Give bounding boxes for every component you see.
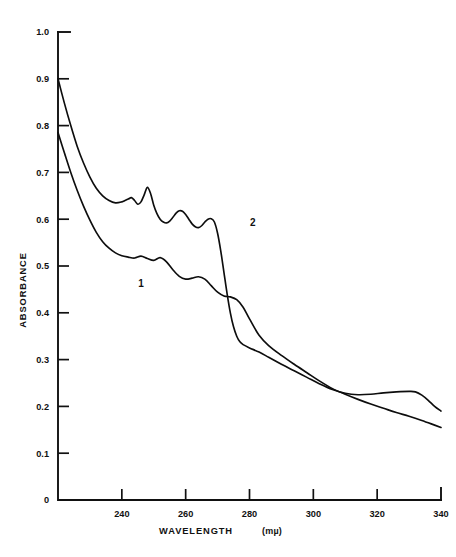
curve-label-2: 2	[250, 217, 256, 228]
x-tick-label-300: 300	[306, 509, 321, 519]
y-axis-ticks	[58, 79, 69, 453]
y-tick-label-0.7: 0.7	[36, 168, 49, 178]
y-tick-label-0.1: 0.1	[36, 449, 49, 459]
y-tick-label-0.2: 0.2	[36, 402, 49, 412]
y-tick-label-0.6: 0.6	[36, 215, 49, 225]
x-tick-label-340: 340	[433, 509, 448, 519]
plot-curves	[58, 79, 441, 428]
spectrum-curve-2	[58, 79, 441, 411]
x-axis-title: WAVELENGTH	[159, 526, 233, 536]
y-tick-label-1.0: 1.0	[36, 27, 49, 37]
x-tick-label-260: 260	[178, 509, 193, 519]
y-axis-title: ABSORBANCE	[18, 252, 28, 328]
x-axis-ticks	[122, 489, 377, 500]
spectrum-chart: 00.10.20.30.40.50.60.70.80.91.0 24026028…	[0, 0, 456, 557]
y-axis-tick-labels: 00.10.20.30.40.50.60.70.80.91.0	[36, 27, 50, 505]
y-tick-label-0: 0	[44, 495, 49, 505]
x-tick-label-320: 320	[369, 509, 384, 519]
absorbance-spectrum-figure: 00.10.20.30.40.50.60.70.80.91.0 24026028…	[0, 0, 456, 557]
chart-axes	[58, 32, 441, 500]
spectrum-curve-1	[58, 133, 441, 428]
y-tick-label-0.9: 0.9	[36, 74, 49, 84]
x-axis-tick-labels: 240260280300320340	[114, 509, 449, 519]
x-tick-label-240: 240	[114, 509, 129, 519]
y-tick-label-0.8: 0.8	[36, 121, 49, 131]
y-tick-label-0.4: 0.4	[36, 308, 50, 318]
y-tick-label-0.5: 0.5	[36, 261, 49, 271]
y-tick-label-0.3: 0.3	[36, 355, 49, 365]
x-axis-unit: (mµ)	[262, 526, 282, 536]
x-tick-label-280: 280	[242, 509, 257, 519]
axis-frame	[58, 32, 441, 500]
curve-label-1: 1	[138, 278, 144, 289]
